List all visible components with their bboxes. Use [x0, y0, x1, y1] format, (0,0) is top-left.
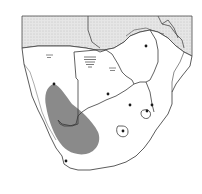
point-north-namibia — [53, 83, 56, 86]
point-swaziland — [146, 110, 149, 113]
point-lesotho — [122, 130, 125, 133]
point-zimbabwe — [145, 45, 148, 48]
point-mozambique-coast — [151, 104, 154, 107]
point-cape — [65, 160, 68, 163]
point-botswana — [107, 93, 110, 96]
distribution-map — [0, 0, 202, 194]
point-transvaal — [129, 104, 132, 107]
